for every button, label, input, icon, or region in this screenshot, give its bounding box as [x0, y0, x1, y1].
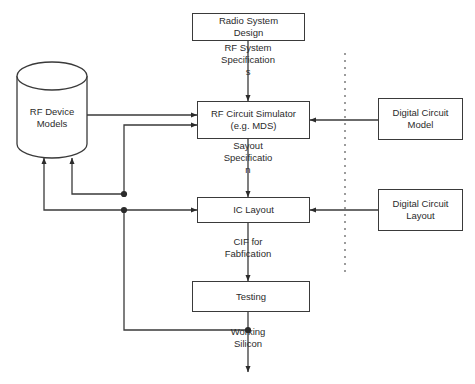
node-ic-layout[interactable]: IC Layout — [197, 197, 310, 223]
rf-device-models-line1: RF Device — [30, 106, 74, 117]
digital-circuit-model-line2: Model — [408, 119, 434, 131]
rf-circuit-simulator-line2: (e.g. MDS) — [231, 120, 277, 132]
node-digital-circuit-model[interactable]: Digital Circuit Model — [378, 98, 463, 140]
edge-label-working-silicon: Working Silicon — [198, 326, 298, 350]
diagram-canvas: RF Device Models Radio System Design RF … — [0, 0, 475, 384]
edge-junction-to-simulator — [124, 125, 197, 194]
testing-line1: Testing — [236, 291, 266, 303]
edge-label-rf-system-spec: RF System Specification s — [198, 42, 298, 78]
edge-feedback-working-silicon — [124, 210, 248, 330]
rf-circuit-simulator-line1: RF Circuit Simulator — [211, 108, 296, 120]
rf-device-models-label: RF Device Models — [12, 94, 92, 130]
edge-junction-to-models-left — [44, 158, 124, 210]
edge-label-cif-fabrication: CIF for Fabfication — [198, 236, 298, 260]
junction-dot-simulator-feedback — [121, 191, 127, 197]
ic-layout-line1: IC Layout — [233, 204, 274, 216]
node-testing[interactable]: Testing — [192, 281, 310, 312]
radio-system-design-line1: Radio System — [219, 15, 278, 27]
rf-device-models-line2: Models — [37, 118, 68, 129]
radio-system-design-line2: Design — [234, 27, 264, 39]
edge-junction-to-models-right — [72, 158, 124, 194]
digital-circuit-model-line1: Digital Circuit — [393, 107, 449, 119]
digital-circuit-layout-line1: Digital Circuit — [393, 198, 449, 210]
digital-circuit-layout-line2: Layout — [406, 210, 435, 222]
node-radio-system-design[interactable]: Radio System Design — [192, 13, 305, 41]
junction-dot-layout-feedback — [121, 207, 127, 213]
node-digital-circuit-layout[interactable]: Digital Circuit Layout — [378, 189, 463, 231]
edge-label-layout-spec: Sayout Specificatio n — [198, 140, 298, 176]
node-rf-circuit-simulator[interactable]: RF Circuit Simulator (e.g. MDS) — [197, 101, 310, 139]
